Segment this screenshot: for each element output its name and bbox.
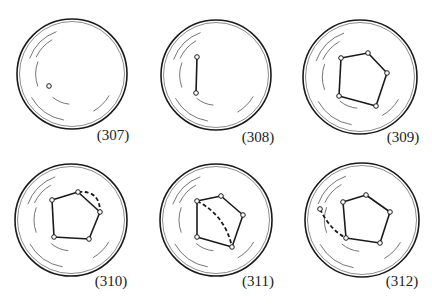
shading-arc — [340, 101, 357, 108]
graph-edge — [78, 192, 100, 212]
shading-arc — [34, 185, 50, 203]
vertex-node — [385, 71, 390, 76]
vertex-node — [366, 51, 371, 56]
vertex-node — [219, 194, 224, 199]
shading-arc — [237, 96, 253, 112]
vertex-node — [52, 235, 57, 240]
bubble-figure — [161, 20, 271, 130]
graph-edge — [196, 57, 197, 93]
diagram-stage: (307) (308) (309) (310) (311) (312) — [0, 0, 432, 307]
shading-arc — [93, 242, 109, 258]
vertex-node — [195, 199, 200, 204]
graph-edge — [341, 53, 368, 58]
vertex-node — [76, 190, 81, 195]
vertex-node — [339, 56, 344, 61]
vertex-node — [378, 241, 383, 246]
vertex-node — [364, 193, 369, 198]
vertex-node — [344, 236, 349, 241]
graph-edge — [221, 196, 243, 215]
shading-arc — [323, 41, 340, 59]
graph-edge — [366, 195, 390, 212]
graph-edge — [52, 200, 54, 237]
graph-edge — [89, 212, 100, 239]
vertex-node — [241, 213, 246, 218]
figure-canvas — [0, 0, 432, 307]
vertex-node — [374, 104, 379, 109]
figure-label-308: (308) — [242, 129, 275, 146]
graph-edge — [376, 73, 387, 106]
vertex-node — [50, 198, 55, 203]
graph-edge — [197, 196, 221, 201]
bubble-figure — [17, 19, 127, 129]
graph-edge — [54, 237, 89, 239]
shading-arc — [93, 95, 109, 111]
shading-arc — [197, 98, 214, 105]
shading-arc — [179, 207, 181, 232]
graph-edge — [368, 53, 387, 73]
vertex-node — [318, 207, 323, 212]
shading-arc — [179, 185, 195, 203]
bubble-figure — [305, 163, 419, 277]
shading-arc — [324, 207, 326, 233]
shading-arc — [325, 184, 342, 202]
vertex-node — [337, 94, 342, 99]
bubble-figure — [15, 164, 127, 276]
bubble-figure — [303, 20, 417, 134]
graph-edge — [197, 237, 232, 247]
figure-label-307: (307) — [97, 127, 130, 144]
vertex-node — [230, 245, 235, 250]
vertex-node — [47, 84, 52, 89]
shading-arc — [51, 244, 68, 251]
figure-label-309: (309) — [387, 129, 420, 146]
shading-arc — [53, 97, 70, 104]
figure-label-311: (311) — [242, 273, 274, 290]
graph-edge — [343, 202, 346, 238]
shading-arc — [384, 242, 400, 258]
shading-arc — [36, 62, 38, 87]
shading-arc — [34, 207, 36, 232]
figure-label-312: (312) — [386, 273, 419, 290]
shading-arc — [322, 64, 324, 90]
vertex-node — [195, 55, 200, 60]
bubble-figure — [160, 164, 272, 276]
vertex-node — [98, 210, 103, 215]
graph-edge — [380, 212, 390, 243]
shading-arc — [196, 244, 213, 251]
shading-arc — [342, 244, 359, 251]
dashed-edge — [320, 209, 346, 238]
dashed-edge — [197, 201, 232, 247]
graph-edge — [346, 238, 380, 243]
vertex-node — [341, 200, 346, 205]
graph-edge — [52, 192, 78, 200]
shading-arc — [382, 99, 398, 115]
shading-arc — [180, 63, 182, 88]
vertex-node — [194, 91, 199, 96]
graph-edge — [343, 195, 366, 202]
shading-arc — [180, 41, 196, 59]
graph-edge — [232, 215, 243, 247]
vertex-node — [87, 237, 92, 242]
figure-label-310: (310) — [95, 273, 128, 290]
shading-arc — [238, 242, 254, 258]
shading-arc — [36, 40, 52, 58]
graph-edge — [339, 58, 341, 96]
vertex-node — [195, 235, 200, 240]
vertex-node — [388, 210, 393, 215]
